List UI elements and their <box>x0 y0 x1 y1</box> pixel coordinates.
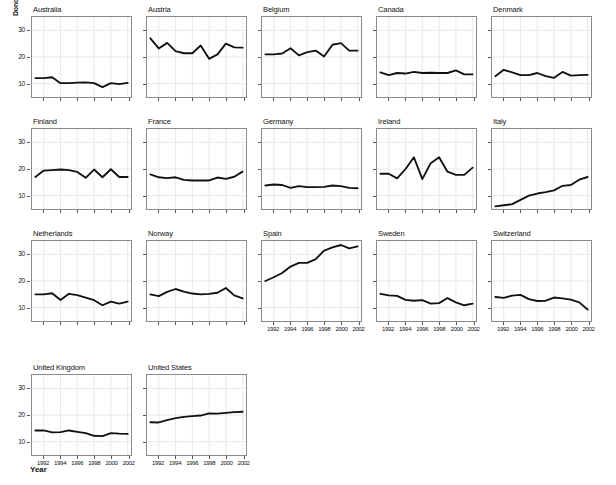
y-tick-mark <box>258 84 261 85</box>
y-tick-mark <box>143 281 146 282</box>
x-tick-label: 2002 <box>118 460 140 466</box>
plot-area <box>376 16 477 98</box>
x-tick-mark <box>290 210 291 213</box>
data-line <box>495 177 587 206</box>
x-tick-mark <box>43 456 44 459</box>
y-tick-mark <box>373 281 376 282</box>
plot-area <box>31 240 132 322</box>
x-tick-mark <box>341 98 342 101</box>
y-tick-label: 20 <box>11 53 25 60</box>
x-tick-mark <box>158 456 159 459</box>
x-tick-mark <box>341 322 342 325</box>
y-tick-mark <box>258 308 261 309</box>
x-tick-mark <box>503 322 504 325</box>
y-tick-mark <box>488 57 491 58</box>
y-tick-mark <box>27 388 30 389</box>
plot-area <box>31 374 132 456</box>
x-tick-mark <box>537 98 538 101</box>
x-tick-mark <box>554 322 555 325</box>
x-tick-mark <box>43 210 44 213</box>
y-tick-mark <box>258 169 261 170</box>
plot-area <box>491 128 592 210</box>
y-tick-mark <box>143 84 146 85</box>
x-tick-mark <box>129 210 130 213</box>
x-tick-label: 2002 <box>348 326 370 332</box>
x-tick-mark <box>94 322 95 325</box>
y-tick-mark <box>27 196 30 197</box>
y-tick-mark <box>373 308 376 309</box>
y-tick-mark <box>373 84 376 85</box>
y-tick-mark <box>373 196 376 197</box>
data-line <box>35 169 127 178</box>
x-tick-mark <box>474 210 475 213</box>
y-tick-mark <box>27 57 30 58</box>
y-axis-label: Donors <box>12 0 19 16</box>
data-line <box>380 157 472 179</box>
panel-title: Australia <box>33 5 61 14</box>
x-tick-mark <box>589 98 590 101</box>
plot-area <box>146 374 247 456</box>
x-tick-mark <box>273 322 274 325</box>
data-line <box>380 294 472 305</box>
x-tick-mark <box>226 456 227 459</box>
x-tick-mark <box>175 322 176 325</box>
data-line <box>150 38 242 59</box>
y-tick-mark <box>373 142 376 143</box>
x-tick-mark <box>422 322 423 325</box>
x-tick-mark <box>554 210 555 213</box>
data-line <box>35 293 127 305</box>
panel-title: United Kingdom <box>33 363 85 372</box>
y-tick-mark <box>488 142 491 143</box>
y-tick-label: 10 <box>11 192 25 199</box>
x-tick-mark <box>111 322 112 325</box>
y-tick-label: 30 <box>11 384 25 391</box>
y-tick-mark <box>143 169 146 170</box>
x-tick-mark <box>226 210 227 213</box>
y-tick-mark <box>143 254 146 255</box>
x-tick-mark <box>307 98 308 101</box>
x-tick-mark <box>77 456 78 459</box>
x-tick-mark <box>589 210 590 213</box>
y-tick-mark <box>488 30 491 31</box>
x-tick-mark <box>43 98 44 101</box>
y-tick-mark <box>258 57 261 58</box>
x-tick-mark <box>474 98 475 101</box>
panel-title: Sweden <box>378 229 405 238</box>
y-tick-mark <box>258 281 261 282</box>
plot-area <box>491 240 592 322</box>
y-tick-mark <box>258 254 261 255</box>
y-tick-mark <box>488 254 491 255</box>
x-tick-mark <box>60 322 61 325</box>
plot-area <box>261 16 362 98</box>
y-tick-mark <box>27 415 30 416</box>
x-tick-mark <box>589 322 590 325</box>
y-tick-mark <box>143 415 146 416</box>
x-tick-mark <box>192 456 193 459</box>
panel-title: United States <box>148 363 192 372</box>
y-tick-mark <box>373 254 376 255</box>
x-tick-mark <box>175 456 176 459</box>
plot-area <box>31 128 132 210</box>
y-tick-mark <box>143 30 146 31</box>
panel-title: Ireland <box>378 117 400 126</box>
x-tick-mark <box>290 98 291 101</box>
y-tick-mark <box>27 308 30 309</box>
x-tick-mark <box>388 210 389 213</box>
panel-title: Switzerland <box>493 229 531 238</box>
x-tick-mark <box>571 322 572 325</box>
data-line <box>150 288 242 298</box>
plot-area <box>146 240 247 322</box>
y-tick-label: 30 <box>11 250 25 257</box>
x-tick-mark <box>60 210 61 213</box>
x-tick-mark <box>60 456 61 459</box>
x-tick-mark <box>537 322 538 325</box>
data-line <box>265 245 357 281</box>
x-tick-mark <box>571 210 572 213</box>
x-tick-mark <box>129 98 130 101</box>
x-tick-mark <box>77 322 78 325</box>
x-tick-mark <box>520 322 521 325</box>
x-tick-mark <box>94 210 95 213</box>
x-tick-mark <box>175 210 176 213</box>
x-tick-mark <box>94 456 95 459</box>
x-tick-mark <box>192 98 193 101</box>
